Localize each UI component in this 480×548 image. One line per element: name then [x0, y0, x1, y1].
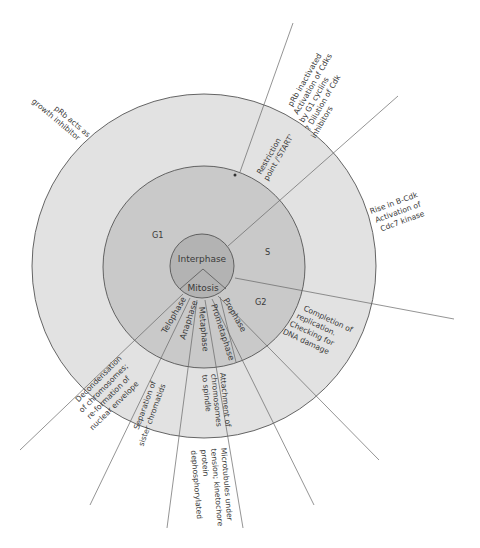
prb-growth-annotation: pRb acts as growth inhibitor	[30, 90, 92, 146]
g2-label: G2	[255, 297, 267, 307]
microtubules-annotation: Microtubules under tension; kinetochore …	[189, 447, 235, 528]
cell-cycle-diagram: Interphase Mitosis G1 S G2 Prophase Prom…	[0, 0, 480, 548]
restriction-point-marker	[234, 174, 237, 177]
g1-label: G1	[152, 230, 164, 240]
interphase-label: Interphase	[178, 254, 227, 264]
b-cdk-annotation: Rise in B-Cdk Activation of Cdc7 kinase	[369, 190, 427, 235]
mitosis-label: Mitosis	[187, 283, 218, 293]
s-label: S	[265, 247, 270, 257]
